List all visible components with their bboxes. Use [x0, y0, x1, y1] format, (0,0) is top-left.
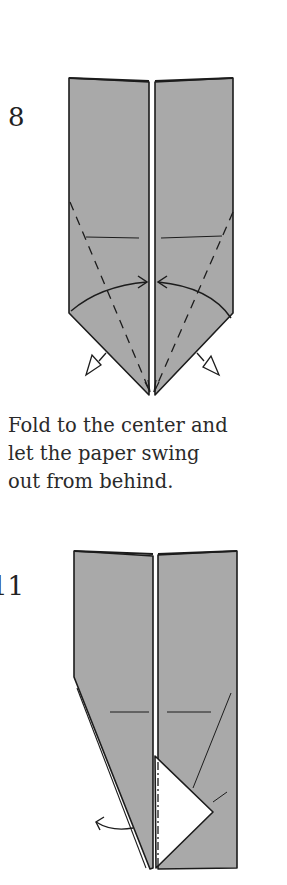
- step-11-diagram: [0, 0, 287, 885]
